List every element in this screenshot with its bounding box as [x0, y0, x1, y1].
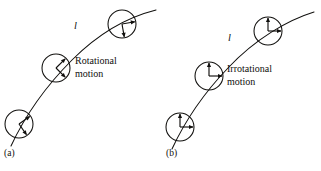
caption-a: (a): [4, 147, 15, 159]
fluid-element-a-1: [5, 110, 38, 138]
fluid-element-b-2: [195, 62, 223, 90]
motion-label-a: Rotationalmotion: [75, 55, 117, 81]
motion-label-b-line2: motion: [227, 76, 255, 87]
motion-label-a-line1: Rotational: [75, 55, 117, 66]
fluid-element-a-3: [108, 10, 138, 38]
caption-b: (b): [166, 147, 177, 159]
motion-label-b: Irrotationalmotion: [227, 63, 272, 89]
arc-length-l-label-b: l: [228, 31, 231, 44]
fluid-element-b-3: [254, 17, 282, 45]
fluid-element-b-1: [166, 113, 194, 141]
motion-label-a-line2: motion: [75, 68, 103, 79]
fluid-element-a-2: [42, 54, 75, 82]
motion-label-b-line1: Irrotational: [227, 63, 272, 74]
arc-length-l-label-a: l: [74, 19, 77, 32]
fluid-rotation-figure: [0, 0, 321, 171]
